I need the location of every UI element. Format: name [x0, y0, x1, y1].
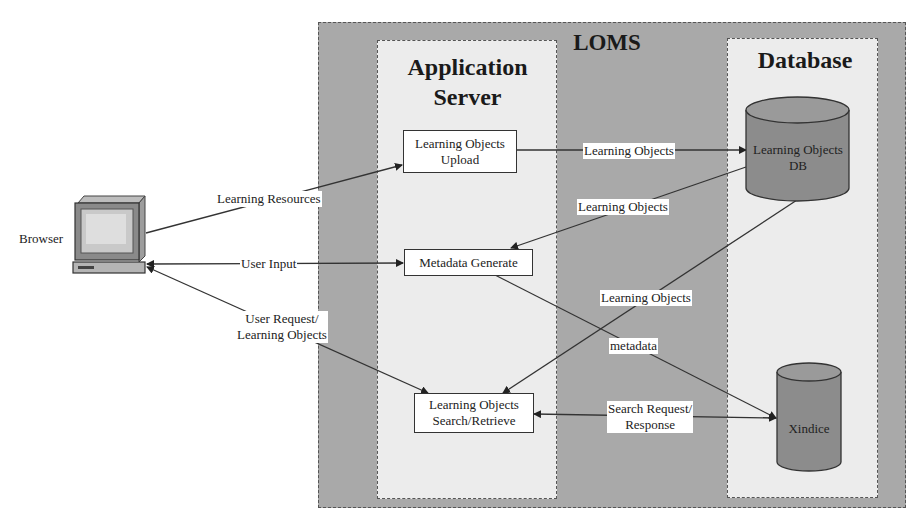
- learning-objects-upload-box: Learning Objects Upload: [403, 130, 517, 173]
- search-xindice-line1: Search Request/: [608, 401, 692, 417]
- search-line1: Learning Objects: [429, 397, 519, 413]
- edge-label-user-request: User Request/ Learning Objects: [236, 311, 328, 343]
- lo-db-line1: Learning Objects: [742, 142, 854, 158]
- metadata-label: Metadata Generate: [419, 255, 518, 271]
- edge-label-upload-to-db: Learning Objects: [583, 143, 675, 159]
- browser-label: Browser: [18, 231, 64, 247]
- edge-label-metadata-to-xindice: metadata: [609, 338, 658, 354]
- computer-icon: [73, 196, 145, 273]
- edge-label-user-input: User Input: [240, 256, 297, 272]
- user-request-line1: User Request/: [237, 311, 327, 327]
- xindice-label: Xindice: [777, 421, 841, 437]
- edge-label-learning-resources: Learning Resources: [216, 191, 322, 207]
- lo-db-line2: DB: [742, 158, 854, 174]
- search-line2: Search/Retrieve: [432, 413, 515, 429]
- upload-line1: Learning Objects: [415, 136, 505, 152]
- xindice-cylinder: [777, 363, 841, 471]
- edge-label-db-to-metadata: Learning Objects: [577, 199, 669, 215]
- metadata-generate-box: Metadata Generate: [404, 249, 533, 276]
- user-request-line2: Learning Objects: [237, 327, 327, 343]
- learning-objects-search-retrieve-box: Learning Objects Search/Retrieve: [414, 393, 534, 433]
- lo-db-label: Learning Objects DB: [742, 142, 854, 174]
- upload-line2: Upload: [441, 152, 479, 168]
- edge-label-search-xindice: Search Request/ Response: [607, 401, 693, 433]
- edge-label-db-to-search: Learning Objects: [600, 290, 692, 306]
- search-xindice-line2: Response: [608, 417, 692, 433]
